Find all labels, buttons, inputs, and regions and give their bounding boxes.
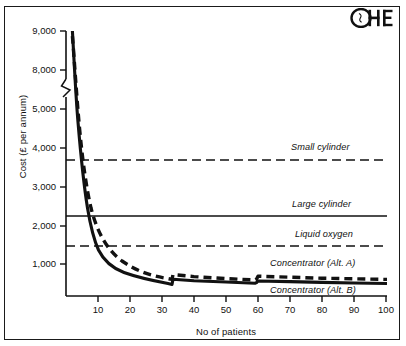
x-axis-ticks — [98, 296, 386, 302]
x-tick-label: 90 — [339, 304, 369, 315]
x-tick-label: 70 — [275, 304, 305, 315]
x-tick-label: 10 — [83, 304, 113, 315]
y-tick-label: 3,000 — [8, 181, 56, 192]
series-label-concentrator-alt-a: Concentrator (Alt. A) — [270, 258, 356, 268]
series-label-liquid-oxygen: Liquid oxygen — [295, 229, 353, 239]
figure-container: Cost (£ per annum) No of patients — [0, 0, 406, 346]
x-tick-label: 20 — [115, 304, 145, 315]
y-axis-break-icon — [62, 79, 71, 97]
series-label-concentrator-alt-b: Concentrator (Alt. B) — [270, 285, 356, 295]
y-tick-label: 9,000 — [8, 25, 56, 36]
y-tick-label: 8,000 — [8, 64, 56, 75]
x-tick-label: 100 — [371, 304, 401, 315]
x-tick-label: 50 — [211, 304, 241, 315]
x-tick-label: 60 — [243, 304, 273, 315]
series-line-concentrator-alt-a — [72, 36, 387, 280]
series-label-small-cylinder: Small cylinder — [291, 142, 350, 152]
x-tick-label: 30 — [147, 304, 177, 315]
y-tick-label: 4,000 — [8, 142, 56, 153]
series-label-large-cylinder: Large cylinder — [292, 199, 351, 209]
y-tick-label: 1,000 — [8, 258, 56, 269]
x-tick-label: 40 — [179, 304, 209, 315]
y-tick-label: 5,000 — [8, 103, 56, 114]
y-axis-ticks — [60, 31, 66, 264]
x-tick-label: 80 — [307, 304, 337, 315]
y-tick-label: 2,000 — [8, 220, 56, 231]
